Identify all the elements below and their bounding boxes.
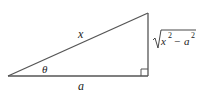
hypotenuse-label: x — [77, 27, 84, 41]
hypotenuse-side — [8, 13, 148, 76]
adjacent-label: a — [78, 79, 84, 93]
opposite-label-minus: − — [174, 35, 180, 47]
right-angle-marker — [141, 69, 148, 76]
angle-label: θ — [42, 63, 48, 75]
opposite-label: x 2 − a 2 — [153, 30, 196, 48]
opposite-label-a: a — [184, 35, 190, 47]
opposite-label-x: x — [160, 35, 166, 47]
opposite-label-exp2: 2 — [191, 31, 195, 40]
triangle-diagram: x θ a x 2 − a 2 — [0, 0, 202, 100]
opposite-label-exp1: 2 — [168, 31, 172, 40]
